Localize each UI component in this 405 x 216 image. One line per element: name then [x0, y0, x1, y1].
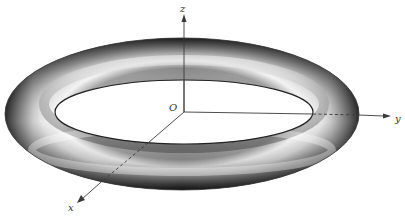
torus-diagram: z y x O [0, 0, 405, 216]
y-axis-label: y [394, 113, 401, 124]
x-axis-label: x [68, 202, 74, 213]
origin-label: O [169, 102, 177, 113]
z-axis-label: z [179, 3, 186, 14]
